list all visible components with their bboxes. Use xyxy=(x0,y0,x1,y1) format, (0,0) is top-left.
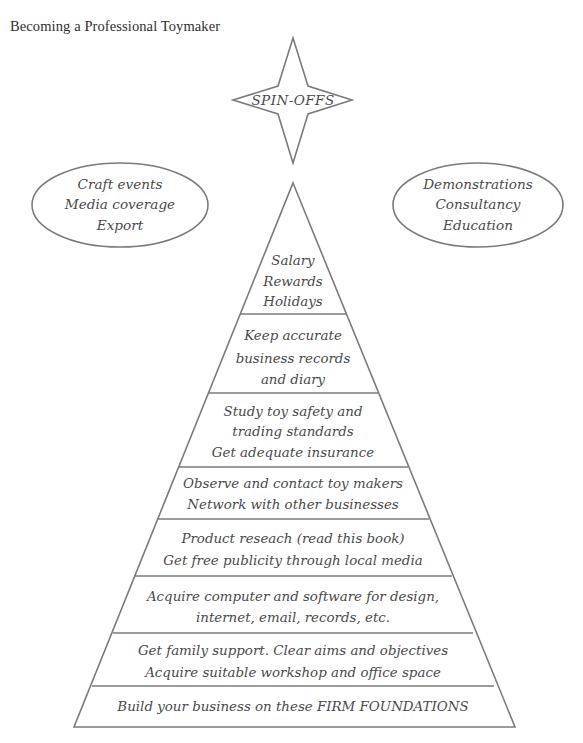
left-ellipse-line-3: Export xyxy=(96,217,144,233)
left-ellipse-line-2: Media coverage xyxy=(64,196,175,212)
tier-5-line-1: Product reseach (read this book) xyxy=(180,531,404,546)
left-ellipse[interactable]: Craft events Media coverage Export xyxy=(32,163,208,247)
tier-2-line-2: business records xyxy=(236,351,351,366)
tier-1-line-2: Rewards xyxy=(262,274,322,289)
pyramid-tier-8[interactable]: Build your business on these FIRM FOUNDA… xyxy=(116,699,468,714)
right-ellipse-line-1: Demonstrations xyxy=(422,176,533,192)
tier-2-line-1: Keep accurate xyxy=(243,328,342,343)
tier-3-line-2: trading standards xyxy=(232,424,353,439)
right-ellipse-line-2: Consultancy xyxy=(435,196,520,212)
star-label: SPIN-OFFS xyxy=(251,92,334,108)
tier-4-line-1: Observe and contact toy makers xyxy=(183,476,403,491)
tier-6-line-2: internet, email, records, etc. xyxy=(196,610,390,625)
tier-1-line-3: Holidays xyxy=(262,294,322,309)
tier-5-line-2: Get free publicity through local media xyxy=(163,553,422,568)
tier-3-line-1: Study toy safety and xyxy=(224,404,363,419)
tier-7-line-2: Acquire suitable workshop and office spa… xyxy=(143,665,441,680)
tier-8-line-1: Build your business on these FIRM FOUNDA… xyxy=(116,699,468,714)
tier-1-line-1: Salary xyxy=(271,253,315,268)
pyramid-tier-3[interactable]: Study toy safety and trading standards G… xyxy=(212,404,374,460)
tier-4-line-2: Network with other businesses xyxy=(186,497,399,512)
spin-offs-star[interactable]: SPIN-OFFS xyxy=(233,38,352,163)
pyramid-tier-1[interactable]: Salary Rewards Holidays xyxy=(262,253,322,309)
tier-3-line-3: Get adequate insurance xyxy=(212,445,374,460)
left-ellipse-line-1: Craft events xyxy=(78,176,163,192)
diagram-page: Becoming a Professional Toymaker SPIN-OF… xyxy=(0,0,583,743)
right-ellipse[interactable]: Demonstrations Consultancy Education xyxy=(393,163,563,247)
tier-6-line-1: Acquire computer and software for design… xyxy=(145,589,439,604)
tier-7-line-1: Get family support. Clear aims and objec… xyxy=(138,643,448,658)
right-ellipse-line-3: Education xyxy=(442,217,513,233)
firm-foundations-pyramid[interactable]: Salary Rewards Holidays Keep accurate bu… xyxy=(74,183,515,727)
toymaker-pyramid-diagram: SPIN-OFFS Craft events Media coverage Ex… xyxy=(0,0,583,743)
tier-2-line-3: and diary xyxy=(261,372,326,387)
